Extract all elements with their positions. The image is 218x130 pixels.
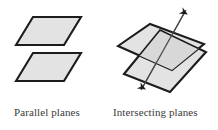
geometry-figure-planes: Parallel planes Intersecting planes: [0, 0, 218, 130]
parallel-plane-lower: [16, 53, 81, 81]
parallel-planes-group: [16, 17, 81, 81]
caption-parallel-planes: Parallel planes: [14, 106, 80, 118]
parallel-plane-upper: [16, 17, 81, 45]
intersecting-planes-group: [118, 10, 206, 92]
caption-intersecting-planes: Intersecting planes: [113, 106, 198, 118]
